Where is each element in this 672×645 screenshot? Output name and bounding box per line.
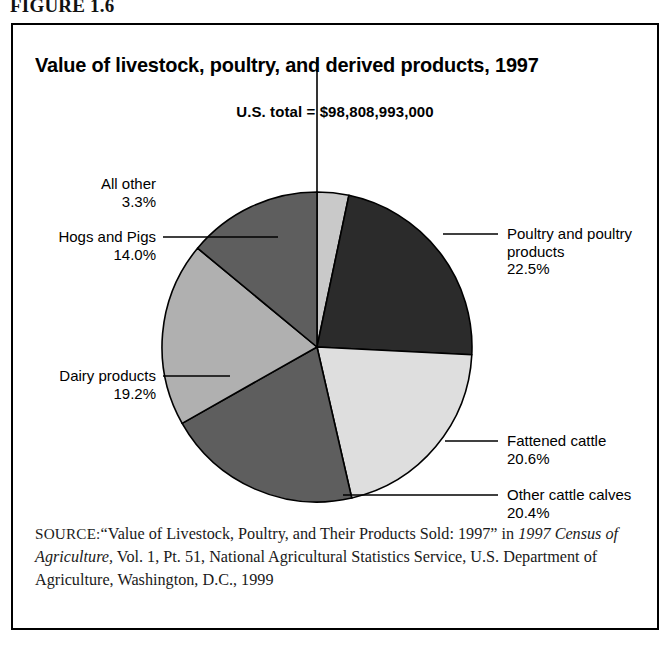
callout-poultry-name-line2: products [507,243,632,261]
callout-fattened-value: 20.6% [507,450,606,468]
callout-poultry: Poultry and poultry products 22.5% [507,225,632,278]
callout-other-cattle: Other cattle calves 20.4% [507,486,631,521]
pie-slice [198,192,317,347]
figure-panel: Value of livestock, poultry, and derived… [11,23,659,630]
figure-page: FIGURE 1.6 Value of livestock, poultry, … [0,0,672,645]
source-note: SOURCE:“Value of Livestock, Poultry, and… [35,522,635,592]
callout-hogs-value: 14.0% [58,246,156,264]
pie-slice [317,192,349,347]
callout-dairy-name: Dairy products [59,367,156,385]
source-label: SOURCE: [35,525,101,542]
callout-hogs-name: Hogs and Pigs [58,228,156,246]
pie-slice-group [162,192,472,502]
callout-hogs: Hogs and Pigs 14.0% [58,228,156,263]
pie-slice [162,248,317,423]
source-text-part2: Vol. 1, Pt. 51, National Agricultural St… [35,548,597,589]
chart-title: Value of livestock, poultry, and derived… [35,53,539,77]
callout-all-other-value: 3.3% [101,193,156,211]
callout-poultry-name-line1: Poultry and poultry [507,225,632,243]
callout-dairy: Dairy products 19.2% [59,367,156,402]
pie-slice [317,347,472,498]
callout-fattened: Fattened cattle 20.6% [507,432,606,467]
pie-slice [182,347,352,502]
chart-subtitle: U.S. total = $98,808,993,000 [13,103,657,120]
callout-dairy-value: 19.2% [59,385,156,403]
figure-number-label: FIGURE 1.6 [10,0,114,17]
pie-slice [317,195,472,354]
callout-other-cattle-value: 20.4% [507,504,631,522]
callout-poultry-value: 22.5% [507,260,632,278]
callout-all-other: All other 3.3% [101,175,156,210]
callout-all-other-name: All other [101,175,156,193]
callout-other-cattle-name: Other cattle calves [507,486,631,504]
callout-fattened-name: Fattened cattle [507,432,606,450]
source-text-part1: “Value of Livestock, Poultry, and Their … [101,525,519,543]
leader-line-group [163,59,498,495]
